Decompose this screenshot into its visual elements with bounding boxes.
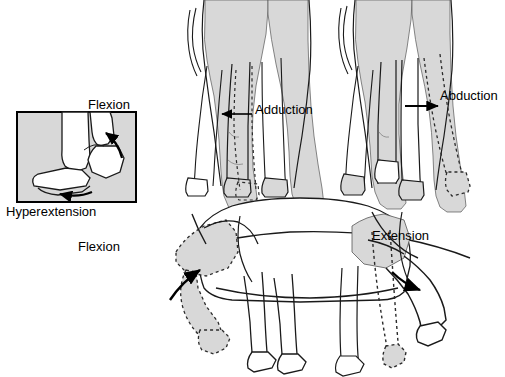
label-extension: Extension <box>372 229 429 242</box>
anatomy-figure: Flexion Hyperextension Adduction Abducti… <box>0 0 505 377</box>
label-hyperextension: Hyperextension <box>6 205 96 218</box>
label-adduction: Adduction <box>255 103 313 116</box>
rear-view-abduction-figure <box>339 0 470 212</box>
label-abduction: Abduction <box>440 89 498 102</box>
lateral-view-figure <box>170 198 470 376</box>
label-flexion-inset: Flexion <box>88 98 130 111</box>
figure-artwork <box>0 0 505 377</box>
fetlock-inset-panel <box>17 112 136 202</box>
label-flexion-lateral: Flexion <box>78 240 120 253</box>
